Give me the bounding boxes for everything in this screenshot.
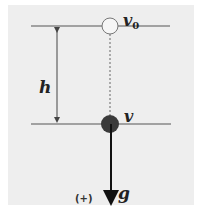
initial-ball-icon <box>102 18 118 34</box>
free-fall-diagram: v0 h v g (+) <box>0 0 199 219</box>
initial-velocity-label: v0 <box>123 11 139 31</box>
gravity-label: g <box>118 183 130 203</box>
height-label: h <box>39 77 51 97</box>
positive-direction-label: (+) <box>75 193 93 204</box>
final-velocity-label: v <box>124 107 134 126</box>
